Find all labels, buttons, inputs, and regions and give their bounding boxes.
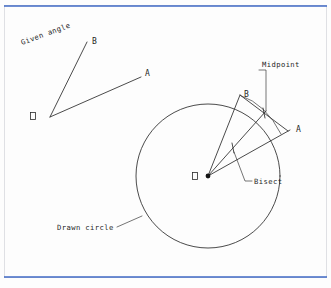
given-angle-caption: Given angle <box>20 21 72 47</box>
circle-center-glyph <box>193 173 198 180</box>
diagram-canvas: B A Given angle B <box>0 0 331 288</box>
bisect-caption: Bisect <box>254 177 282 186</box>
circle-center-dot <box>206 174 211 179</box>
drawn-circle-leader <box>117 216 142 227</box>
midpoint-caption: Midpoint <box>262 60 300 69</box>
midpoint-leader <box>259 70 266 111</box>
given-angle-ray-a <box>50 77 141 117</box>
radius-to-a <box>208 130 290 176</box>
given-angle-label-a: A <box>145 69 150 78</box>
drawn-circle-group: B A Midpoint Bisect Drawn circle <box>57 60 301 248</box>
given-angle-ray-b <box>50 42 87 117</box>
page-frame <box>5 6 327 278</box>
given-angle-group: B A Given angle <box>20 21 150 120</box>
geometry-figure: B A Given angle B <box>0 0 331 288</box>
circle-label-a: A <box>296 125 301 134</box>
circle-label-b: B <box>244 90 249 99</box>
drawn-circle-caption: Drawn circle <box>57 223 114 232</box>
radius-to-b <box>208 95 240 176</box>
bisector-ray <box>208 111 266 176</box>
given-angle-label-b: B <box>92 37 97 46</box>
bisect-tick <box>232 143 234 153</box>
given-angle-vertex-glyph <box>31 113 36 120</box>
